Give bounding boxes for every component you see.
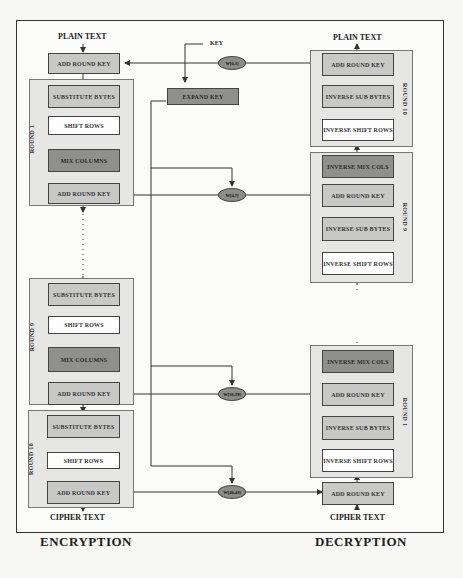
round-key-w36-39: W[36,39] (218, 387, 246, 401)
encryption-input-label: PLAIN TEXT (58, 32, 107, 41)
dec-r9-inverse-shift-rows: INVERSE SHIFT ROWS (322, 252, 394, 275)
enc-r9-substitute-bytes: SUBSTITUTE BYTES (48, 283, 120, 306)
dec-r9-inverse-sub-bytes: INVERSE SUB BYTES (322, 217, 394, 241)
decryption-input-label: CIPHER TEXT (330, 513, 385, 522)
decryption-title: DECRYPTION (315, 534, 407, 550)
enc-r10-shift-rows: SHIFT ROWS (47, 452, 120, 469)
enc-r1-mix-columns: MIX COLUMNS (48, 149, 120, 172)
enc-round-9-label: ROUND 9 (29, 323, 35, 352)
enc-round-1-label: ROUND 1 (29, 125, 35, 154)
enc-round-10-label: ROUND 10 (28, 443, 34, 475)
encryption-output-label: CIPHER TEXT (50, 513, 105, 522)
enc-r10-add-round-key: ADD ROUND KEY (47, 481, 120, 504)
dec-r9-add-round-key: ADD ROUND KEY (322, 184, 394, 207)
round-key-w0-3: W[0,3] (218, 56, 246, 70)
dec-r1-inverse-shift-rows: INVERSE SHIFT ROWS (322, 449, 394, 472)
expand-key-box: EXPAND KEY (167, 88, 239, 105)
enc-r1-shift-rows: SHIFT ROWS (48, 116, 120, 135)
encryption-title: ENCRYPTION (40, 534, 132, 550)
dec-round-10-label: ROUND 10 (402, 83, 408, 115)
dec-r10-inverse-shift-rows: INVERSE SHIFT ROWS (322, 119, 394, 141)
enc-r9-mix-columns: MIX COLUMNS (48, 347, 120, 372)
enc-r1-substitute-bytes: SUBSTITUTE BYTES (48, 85, 120, 108)
round-key-w4-7: W[4,7] (218, 188, 246, 202)
dec-round-9-label: ROUND 9 (402, 203, 408, 232)
dec-initial-add-round-key: ADD ROUND KEY (322, 482, 394, 505)
dec-round-1-label: ROUND 1 (402, 398, 408, 427)
enc-r9-shift-rows: SHIFT ROWS (48, 316, 120, 334)
dec-r1-add-round-key: ADD ROUND KEY (322, 383, 394, 406)
dec-r1-inverse-mix-cols: INVERSE MIX COLS (322, 350, 394, 373)
enc-r1-add-round-key: ADD ROUND KEY (48, 183, 120, 204)
dec-r10-inverse-sub-bytes: INVERSE SUB BYTES (322, 85, 394, 108)
enc-r10-substitute-bytes: SUBSTITUTE BYTES (47, 415, 120, 438)
dec-r1-inverse-sub-bytes: INVERSE SUB BYTES (322, 416, 394, 440)
decryption-output-label: PLAIN TEXT (333, 33, 382, 42)
dec-r10-add-round-key: ADD ROUND KEY (322, 53, 394, 76)
round-key-w40-43: W[40,43] (218, 485, 246, 499)
key-label: KEY (210, 40, 223, 46)
dec-r9-inverse-mix-cols: INVERSE MIX COLS (322, 155, 394, 178)
enc-r9-add-round-key: ADD ROUND KEY (48, 382, 120, 405)
enc-initial-add-round-key: ADD ROUND KEY (48, 53, 120, 74)
